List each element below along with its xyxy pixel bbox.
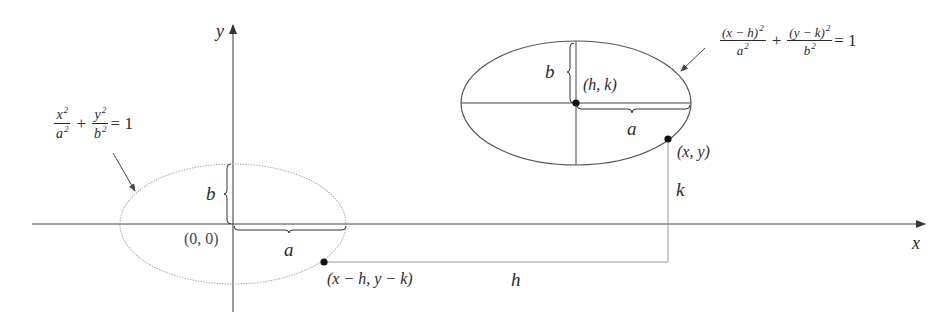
frac-y-over-b: y2 b2 xyxy=(92,106,109,141)
translated-point xyxy=(664,135,671,142)
brace-b-standard xyxy=(224,164,231,224)
standard-b-label: b xyxy=(206,184,216,203)
center-label: (h, k) xyxy=(583,77,617,93)
translated-equation-pointer xyxy=(681,48,705,71)
brace-a-standard xyxy=(234,226,346,233)
frac-yk-over-b: (y − k)2 b2 xyxy=(787,24,832,57)
origin-label: (0, 0) xyxy=(184,231,219,247)
standard-equation-pointer xyxy=(113,153,135,191)
original-point-label: (x − h, y − k) xyxy=(327,271,413,287)
original-point xyxy=(320,258,327,265)
translation-connector xyxy=(324,139,668,262)
y-axis-label: y xyxy=(216,22,224,40)
center-point xyxy=(572,99,579,106)
frac-xh-over-a: (x − h)2 a2 xyxy=(720,24,766,57)
vertical-shift-label: k xyxy=(676,180,684,199)
translated-b-label: b xyxy=(545,62,555,81)
standard-a-label: a xyxy=(284,240,294,259)
frac-x-over-a: x2 a2 xyxy=(54,106,71,141)
x-axis-label: x xyxy=(912,234,920,252)
standard-ellipse-equation: x2 a2 + y2 b2 = 1 xyxy=(52,106,133,141)
brace-b-translated xyxy=(567,43,574,103)
translated-a-label: a xyxy=(627,119,637,138)
translated-ellipse-equation: (x − h)2 a2 + (y − k)2 b2 = 1 xyxy=(718,24,857,57)
horizontal-shift-label: h xyxy=(511,270,521,289)
brace-a-translated xyxy=(577,105,690,113)
translated-point-label: (x, y) xyxy=(677,144,710,160)
